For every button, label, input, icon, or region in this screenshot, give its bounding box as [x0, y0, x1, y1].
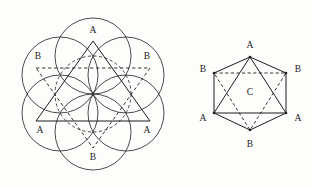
right-figure-group: A B A B A B C: [200, 40, 302, 149]
hexagon-vertex-dot-upper-right: [285, 72, 288, 75]
diagram-canvas: A B B A A B A B A B A B C: [0, 0, 312, 186]
left-label-upper-left-b: B: [35, 51, 41, 61]
left-upright-triangle: [36, 41, 150, 121]
hexagon-vertex-dot-lower-right: [285, 112, 288, 115]
left-label-lower-right-a: A: [144, 125, 151, 135]
hexagon-label-upper-right-b: B: [295, 64, 301, 74]
hexagon-label-lower-left-a: A: [200, 113, 207, 123]
hexagon-triangle-aaa: [214, 57, 286, 113]
left-label-lower-left-a: A: [37, 125, 44, 135]
left-label-top-a: A: [90, 25, 97, 35]
left-label-bottom-b: B: [90, 152, 96, 162]
left-inverted-triangle: [36, 68, 150, 148]
hexagon-label-lower-right-a: A: [295, 113, 302, 123]
hexagon-vertex-dot-upper-left: [213, 72, 216, 75]
hexagon-vertex-dot-lower-left: [213, 112, 216, 115]
hexagon-label-center-c: C: [247, 87, 253, 97]
hexagon-vertex-dot-top: [249, 56, 252, 59]
left-label-upper-right-b: B: [144, 51, 150, 61]
hexagon-triangle-bbb: [214, 73, 286, 130]
hexagon-label-top-a: A: [247, 40, 254, 50]
left-figure-group: A B B A A B: [22, 18, 164, 170]
hexagon-label-bottom-b: B: [247, 139, 253, 149]
hexagon-vertex-dot-bottom: [249, 129, 252, 132]
hexagon-label-upper-left-b: B: [200, 64, 206, 74]
